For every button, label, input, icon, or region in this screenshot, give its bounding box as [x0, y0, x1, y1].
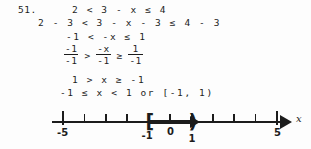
- tick-mark-5: [276, 111, 278, 125]
- interval-arrowhead-icon: [190, 116, 200, 128]
- problem-number: 51.: [18, 4, 37, 15]
- work-step-3: -1 < -x ≤ 1: [66, 31, 147, 42]
- axis-arrowhead-icon: [280, 115, 292, 129]
- interval-start-bracket: [: [146, 112, 155, 131]
- tick-mark-neg4: [84, 114, 86, 123]
- tick-label-1: 1: [188, 133, 195, 144]
- tick-mark-4: [255, 114, 257, 123]
- tick-mark-neg2: [126, 114, 128, 123]
- tick-mark-2: [212, 114, 214, 123]
- interval-shaded-segment: [149, 120, 192, 124]
- axis-variable-label: x: [296, 113, 302, 124]
- fraction-operator-2: ≥: [117, 50, 123, 61]
- work-step-6-solution: -1 ≤ x < 1 or [-1, 1): [60, 87, 214, 98]
- fraction-right-denominator: -1: [128, 56, 142, 66]
- fraction-left-numerator: -1: [64, 44, 78, 54]
- tick-label-0: 0: [167, 126, 174, 137]
- work-step-5: 1 > x ≥ -1: [72, 74, 145, 85]
- fraction-left-denominator: -1: [64, 56, 78, 66]
- work-step-4-fractions: -1 -1 > -x -1 ≥ 1 -1: [63, 44, 144, 66]
- fraction-middle-numerator: -x: [96, 44, 110, 54]
- fraction-right: 1 -1: [128, 44, 142, 66]
- fraction-middle: -x -1: [96, 44, 110, 66]
- tick-label-neg5: -5: [57, 127, 68, 138]
- tick-mark-neg5: [62, 111, 64, 125]
- fraction-middle-denominator: -1: [96, 56, 110, 66]
- fraction-right-numerator: 1: [131, 44, 139, 54]
- number-line-graph: x -5-1015 [): [0, 100, 311, 149]
- worked-solution-page: 51. 2 < 3 - x ≤ 4 2 - 3 < 3 - x - 3 ≤ 4 …: [0, 0, 311, 149]
- work-step-1: 2 < 3 - x ≤ 4: [72, 4, 167, 15]
- tick-label-5: 5: [274, 127, 281, 138]
- fraction-left: -1 -1: [64, 44, 78, 66]
- work-step-2: 2 - 3 < 3 - x - 3 ≤ 4 - 3: [38, 17, 221, 28]
- tick-mark-neg3: [105, 114, 107, 123]
- tick-mark-3: [233, 114, 235, 123]
- fraction-operator-1: >: [84, 50, 90, 61]
